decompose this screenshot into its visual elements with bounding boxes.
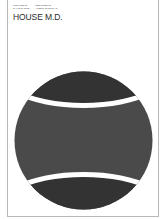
ball-top-cap (0, 7, 167, 103)
ball-bottom-cap (0, 177, 167, 219)
tennis-ball-icon (0, 0, 167, 219)
